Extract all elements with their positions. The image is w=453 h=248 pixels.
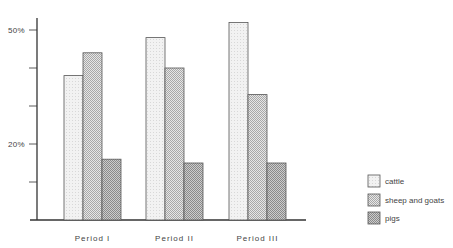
- bar-pigs: [102, 159, 121, 220]
- legend-label: pigs: [385, 214, 400, 223]
- bar-pigs: [267, 163, 286, 220]
- legend-item-cattle: cattle: [368, 175, 405, 187]
- bar-group-3: [229, 22, 286, 220]
- legend-label: sheep and goats: [385, 196, 444, 205]
- legend-swatch: [368, 194, 380, 206]
- legend-swatch: [368, 175, 380, 187]
- x-tick-label: Period I: [75, 234, 111, 243]
- y-tick-label: 50%: [8, 26, 25, 35]
- legend-item-sheep-and-goats: sheep and goats: [368, 194, 444, 206]
- x-tick-label: Period II: [155, 234, 194, 243]
- bar-cattle: [229, 22, 248, 220]
- bar-pigs: [184, 163, 203, 220]
- bar-sheep-and-goats: [248, 95, 267, 220]
- x-tick-label: Period III: [236, 234, 278, 243]
- bar-group-1: [64, 53, 121, 220]
- bar-sheep-and-goats: [83, 53, 102, 220]
- bar-cattle: [64, 76, 83, 220]
- y-tick-label: 20%: [8, 140, 25, 149]
- bar-chart: 50%20% Period IPeriod IIPeriod III cattl…: [0, 0, 453, 248]
- legend-item-pigs: pigs: [368, 212, 400, 224]
- bar-sheep-and-goats: [165, 68, 184, 220]
- bar-cattle: [146, 38, 165, 220]
- legend: cattlesheep and goatspigs: [368, 175, 444, 224]
- bar-group-2: [146, 38, 203, 220]
- x-axis-labels: Period IPeriod IIPeriod III: [75, 234, 279, 243]
- legend-label: cattle: [385, 177, 405, 186]
- bars: [64, 22, 286, 220]
- legend-swatch: [368, 212, 380, 224]
